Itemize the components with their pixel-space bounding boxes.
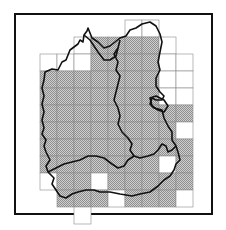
grid-cell-hatched (74, 71, 91, 88)
grid-cell-hatched (57, 88, 74, 105)
grid-cell-hatched (91, 122, 108, 139)
grid-cell-hatched (159, 190, 176, 207)
grid-cell-hatched (142, 139, 159, 156)
grid-cell-hatched (108, 122, 125, 139)
grid-cell-hatched (176, 173, 193, 190)
grid-cell-empty (74, 207, 91, 224)
grid-cell-empty (176, 122, 193, 139)
grid-cell-hatched (91, 54, 108, 71)
grid-cell-hatched (125, 173, 142, 190)
grid-cell-hatched (108, 71, 125, 88)
grid-cell-hatched (74, 105, 91, 122)
grid-cell-hatched (125, 54, 142, 71)
grid-cell-empty (176, 71, 193, 88)
grid-cell-hatched (142, 105, 159, 122)
grid-cell-empty (159, 54, 176, 71)
grid-cell-hatched (74, 139, 91, 156)
grid-cell-hatched (125, 190, 142, 207)
grid-cell-empty (176, 54, 193, 71)
grid-cell-empty (74, 54, 91, 71)
grid-cell-hatched (108, 105, 125, 122)
grid-cell-hatched (176, 105, 193, 122)
grid-cell-hatched (125, 88, 142, 105)
grid-cell-hatched (142, 156, 159, 173)
grid-cell-hatched (91, 139, 108, 156)
grid-cell-hatched (176, 156, 193, 173)
grid-cell-hatched (125, 37, 142, 54)
grid-cell-hatched (91, 88, 108, 105)
grid-cell-hatched (91, 105, 108, 122)
grid-cell-hatched (74, 122, 91, 139)
grid-cell-hatched (125, 139, 142, 156)
grid-cell-hatched (74, 173, 91, 190)
grid-cell-hatched (108, 139, 125, 156)
grid-cell-hatched (142, 54, 159, 71)
grid-cell-hatched (57, 139, 74, 156)
grid-cell-hatched (142, 37, 159, 54)
grid-cell-empty (159, 88, 176, 105)
grid-cell-hatched (108, 173, 125, 190)
grid-cell-hatched (108, 156, 125, 173)
grid-cell-hatched (125, 71, 142, 88)
grid-cell-empty (176, 88, 193, 105)
grid-cell-hatched (57, 173, 74, 190)
grid-cell-hatched (74, 88, 91, 105)
grid-cell-hatched (57, 105, 74, 122)
grid-cell-empty (176, 190, 193, 207)
grid-cell-hatched (57, 156, 74, 173)
grid-cell-empty (91, 173, 108, 190)
grid-map (0, 0, 226, 230)
grid-cell-hatched (40, 139, 57, 156)
grid-cell-hatched (125, 105, 142, 122)
grid-cell-hatched (142, 122, 159, 139)
grid-cell-empty (40, 54, 57, 71)
grid-cell-hatched (57, 122, 74, 139)
grid-cell-empty (159, 71, 176, 88)
grid-cell-hatched (91, 71, 108, 88)
grid-cell-hatched (57, 71, 74, 88)
